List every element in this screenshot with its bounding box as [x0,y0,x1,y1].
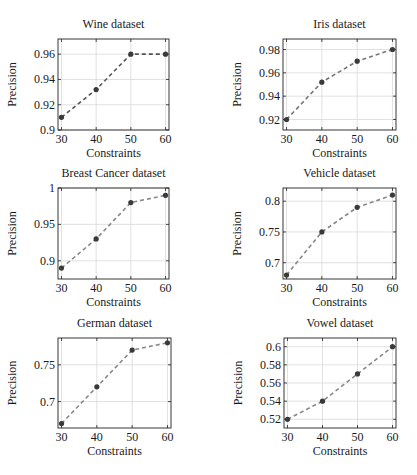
x-axis-label: Constraints [87,444,142,458]
data-point-marker [319,80,324,85]
x-axis-label: Constraints [313,444,368,458]
x-axis-label: Constraints [86,295,141,309]
data-point-marker [94,87,99,92]
y-tick-label: 0.92 [259,113,280,127]
data-point-marker [390,192,395,197]
y-tick-label: 0.7 [265,256,280,270]
y-tick-label: 0.94 [34,72,55,86]
grid-lines [58,188,169,279]
y-tick-label: 0.75 [259,225,280,239]
y-axis-label: Precision [231,361,245,406]
data-point-marker [355,205,360,210]
y-tick-label: 0.56 [260,376,281,390]
x-tick-label: 40 [316,281,328,295]
y-axis-label: Precision [230,211,244,256]
x-tick-label: 30 [281,132,293,146]
subplot-german-dataset: German dataset304050600.70.75Constraints… [5,316,173,458]
y-tick-label: 0.94 [259,89,280,103]
x-tick-label: 50 [351,132,363,146]
y-tick-label: 0.96 [34,47,55,61]
y-tick-label: 0.75 [34,358,55,372]
data-point-marker [284,117,289,122]
x-tick-label: 30 [282,430,294,444]
x-tick-label: 50 [351,281,363,295]
y-axis-label: Precision [5,62,19,107]
x-tick-label: 30 [55,281,67,295]
x-tick-label: 30 [281,281,293,295]
y-tick-label: 0.96 [259,66,280,80]
plot-frame [283,188,396,279]
x-tick-label: 30 [56,430,68,444]
y-tick-label: 0.98 [259,43,280,57]
y-axis-label: Precision [230,62,244,107]
y-tick-label: 0.9 [40,254,55,268]
data-point-marker [165,340,170,345]
data-point-marker [59,265,64,270]
x-axis-label: Constraints [312,146,367,160]
data-point-marker [163,193,168,198]
x-tick-label: 60 [160,132,172,146]
x-tick-label: 40 [316,132,328,146]
subplot-vowel-dataset: Vowel dataset304050600.520.540.560.580.6… [231,316,399,458]
chart-title: Iris dataset [313,17,366,31]
y-tick-label: 0.9 [40,123,55,137]
y-tick-label: 0.6 [266,340,281,354]
y-tick-label: 0.92 [34,98,55,112]
data-point-marker [355,371,360,376]
chart-title: Vehicle dataset [303,166,376,180]
y-tick-label: 0.7 [40,395,55,409]
data-point-marker [128,52,133,57]
data-point-marker [320,399,325,404]
grid-lines [283,39,396,130]
x-tick-label: 50 [126,430,138,444]
series-line [287,50,393,120]
x-tick-label: 50 [352,430,364,444]
data-point-marker [128,200,133,205]
series-line [61,54,165,117]
x-tick-label: 60 [386,132,398,146]
data-point-marker [284,272,289,277]
x-tick-label: 60 [160,281,172,295]
grid-lines [284,338,396,428]
data-point-marker [94,384,99,389]
data-point-marker [285,417,290,422]
x-tick-label: 60 [161,430,173,444]
subplot-iris-dataset: Iris dataset304050600.920.940.960.98Cons… [230,17,398,160]
y-tick-label: 0.52 [260,412,281,426]
plot-frame [58,338,171,428]
data-point-marker [59,421,64,426]
x-tick-label: 30 [55,132,67,146]
y-tick-label: 1 [49,181,55,195]
subplot-wine-dataset: Wine dataset304050600.90.920.940.96Const… [5,17,172,160]
subplot-vehicle-dataset: Vehicle dataset304050600.70.750.8Constra… [230,166,398,309]
data-point-marker [59,115,64,120]
grid-lines [58,338,171,428]
plot-frame [58,39,169,130]
data-point-marker [163,52,168,57]
x-tick-label: 40 [91,430,103,444]
series-line [61,195,165,268]
grid-lines [283,188,396,279]
plot-frame [283,39,396,130]
y-tick-label: 0.95 [34,217,55,231]
figure-grid: Wine dataset304050600.90.920.940.96Const… [0,0,417,475]
x-tick-label: 40 [317,430,329,444]
chart-title: Breast Cancer dataset [62,166,167,180]
data-point-marker [319,229,324,234]
series-line [62,343,168,424]
data-point-marker [390,344,395,349]
y-tick-label: 0.58 [260,358,281,372]
y-axis-label: Precision [5,211,19,256]
y-tick-label: 0.54 [260,394,281,408]
plot-frame [58,188,169,279]
subplot-breast-cancer-dataset: Breast Cancer dataset304050600.90.951Con… [5,166,172,309]
chart-title: Wine dataset [83,17,145,31]
chart-title: Vowel dataset [307,316,374,330]
x-tick-label: 50 [125,281,137,295]
y-tick-label: 0.8 [265,194,280,208]
x-axis-label: Constraints [86,146,141,160]
x-tick-label: 60 [387,430,399,444]
data-point-marker [94,236,99,241]
charts-canvas: Wine dataset304050600.90.920.940.96Const… [0,0,417,475]
x-tick-label: 40 [90,132,102,146]
